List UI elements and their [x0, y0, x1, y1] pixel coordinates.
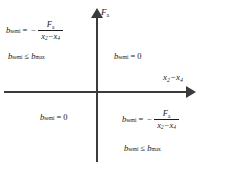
- quadrant-diagram: Fa x2−x4 bsemi = − Fa x2−x4 bsemi ≤ bmax…: [0, 0, 232, 170]
- q1-equation-lhs-subscript: semi: [118, 55, 128, 60]
- q4-denominator-sub1: 2: [161, 124, 164, 130]
- x-axis-label-sub2: 4: [180, 77, 183, 83]
- q2-equation-sign: −: [31, 26, 36, 35]
- q2-denominator-sub2: 4: [57, 35, 60, 41]
- q2-fraction-denominator: x2−x4: [38, 31, 63, 41]
- q4-numerator-subscript: a: [168, 113, 170, 119]
- quadrant-3-equation: bsemi = 0: [40, 113, 68, 122]
- q2-equation-fraction: Fa x2−x4: [38, 20, 63, 40]
- quadrant-2-equation: bsemi = − Fa x2−x4: [6, 20, 64, 40]
- q1-equation-value: 0: [137, 52, 141, 61]
- quadrant-4-equation: bsemi = − Fa x2−x4: [122, 109, 180, 129]
- q4-equation-equals: =: [139, 115, 144, 124]
- q1-equation-equals: =: [131, 52, 136, 61]
- x-axis-label-sub1: 2: [167, 77, 170, 83]
- x-axis-label: x2−x4: [163, 73, 183, 82]
- q3-equation-lhs-subscript: semi: [44, 116, 54, 121]
- quadrant-1-equation: bsemi = 0: [114, 52, 142, 61]
- q2-equation-equals: =: [23, 26, 28, 35]
- y-axis-line: [96, 12, 98, 162]
- q2-constraint-lhs-subscript: semi: [12, 55, 22, 60]
- q2-fraction-numerator: Fa: [44, 20, 58, 30]
- quadrant-2-constraint: bsemi ≤ bmax: [8, 52, 45, 61]
- q3-equation-equals: =: [57, 113, 62, 122]
- q4-constraint-lhs-subscript: semi: [128, 147, 138, 152]
- q4-constraint-rhs-subscript: max: [151, 147, 160, 152]
- x-axis-arrowhead-icon: [186, 86, 196, 98]
- y-axis-label-subscript: a: [107, 12, 110, 18]
- quadrant-4-constraint: bsemi ≤ bmax: [124, 144, 161, 153]
- q2-equation-lhs-subscript: semi: [10, 29, 20, 34]
- q4-equation-sign: −: [147, 115, 152, 124]
- q2-constraint-rhs-subscript: max: [35, 55, 44, 60]
- q2-numerator-subscript: a: [52, 24, 54, 30]
- y-axis-label-var: F: [101, 7, 107, 17]
- q2-denominator-sub1: 2: [45, 35, 48, 41]
- q3-equation-value: 0: [63, 113, 67, 122]
- q4-constraint-relation: ≤: [141, 144, 146, 153]
- q4-equation-fraction: Fa x2−x4: [154, 109, 179, 129]
- q2-constraint-relation: ≤: [25, 52, 30, 61]
- q4-denominator-sub2: 4: [173, 124, 176, 130]
- q4-equation-lhs-subscript: semi: [126, 118, 136, 123]
- q4-fraction-denominator: x2−x4: [154, 120, 179, 130]
- q4-fraction-numerator: Fa: [160, 109, 174, 119]
- y-axis-label: Fa: [101, 8, 109, 17]
